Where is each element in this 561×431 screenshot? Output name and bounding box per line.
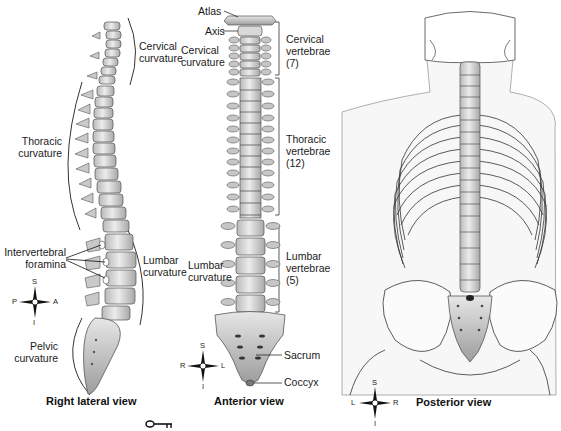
label-lateral-cervical-curvature: Cervical curvature [139,40,183,64]
compass-posterior-left: L [351,398,355,407]
spine-illustrations [0,0,561,431]
compass-posterior-top: S [372,378,377,387]
label-cervical-vertebrae: Cervical vertebrae (7) [286,33,330,69]
label-sacrum: Sacrum [284,349,320,361]
compass-anterior [187,350,219,382]
compass-lateral-top: S [32,277,37,286]
compass-lateral-right: A [53,297,58,306]
label-anterior-lumbar-curvature: Lumbar curvature [188,259,232,283]
label-axis: Axis [205,25,225,37]
compass-lateral-bottom: I [33,318,35,327]
label-lateral-lumbar-curvature: Lumbar curvature [143,254,187,278]
lateral-spine [66,18,143,395]
posterior-torso [342,12,557,396]
compass-anterior-top: S [200,341,205,350]
anterior-spine [215,11,285,386]
label-pelvic-curvature: Pelvic curvature [10,340,58,364]
compass-anterior-right: L [221,361,225,370]
title-anterior-view: Anterior view [214,395,284,407]
compass-posterior-bottom: I [374,419,376,428]
compass-anterior-bottom: I [202,382,204,391]
label-anterior-cervical-curvature: Cervical curvature [181,44,225,68]
compass-anterior-left: R [180,361,185,370]
title-posterior-view: Posterior view [416,396,491,408]
key-icon [146,421,172,428]
label-thoracic-vertebrae: Thoracic vertebrae (12) [286,133,330,169]
label-intervertebral-foramina: Intervertebral foramina [2,246,66,270]
label-lumbar-vertebrae: Lumbar vertebrae (5) [286,250,330,286]
compass-lateral-left: P [12,297,17,306]
compass-posterior-right: R [393,398,398,407]
compass-lateral [19,286,51,318]
label-thoracic-curvature: Thoracic curvature [7,135,62,159]
label-atlas: Atlas [198,5,221,17]
title-right-lateral-view: Right lateral view [46,395,136,407]
label-coccyx: Coccyx [284,376,318,388]
